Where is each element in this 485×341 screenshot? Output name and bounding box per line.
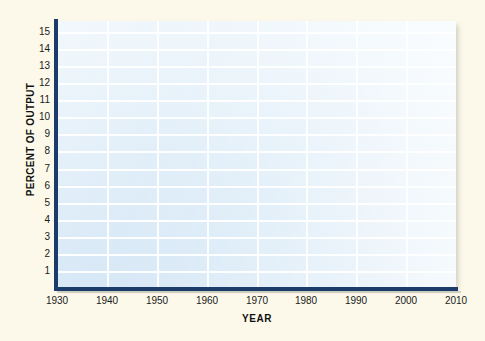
y-tick-label: 1 [28,266,50,276]
y-axis-line [54,19,58,291]
x-tick-label: 1930 [34,295,80,306]
gridline-vertical [207,21,209,288]
gridline-vertical [406,21,408,288]
x-tick-label: 1970 [234,295,280,306]
y-tick-label: 15 [28,27,50,37]
gridline-vertical [306,21,308,288]
x-tick-label: 1940 [84,295,130,306]
gridline-vertical [257,21,259,288]
x-tick-label: 1950 [134,295,180,306]
chart-figure: 151413121110987654321 193019401950196019… [0,0,485,341]
gridlines [57,21,456,288]
x-tick-label: 1960 [184,295,230,306]
x-tick-label: 2000 [383,295,429,306]
x-tick-label: 1990 [333,295,379,306]
gridline-vertical [157,21,159,288]
gridline-vertical [356,21,358,288]
y-axis-title: PERCENT OF OUTPUT [25,40,36,240]
plot-area [57,21,456,288]
x-tick-label: 1980 [283,295,329,306]
gridline-vertical [107,21,109,288]
x-axis-title: YEAR [157,313,357,324]
y-tick-label: 2 [28,249,50,259]
x-tick-label: 2010 [433,295,479,306]
x-axis-shadow [57,291,461,293]
